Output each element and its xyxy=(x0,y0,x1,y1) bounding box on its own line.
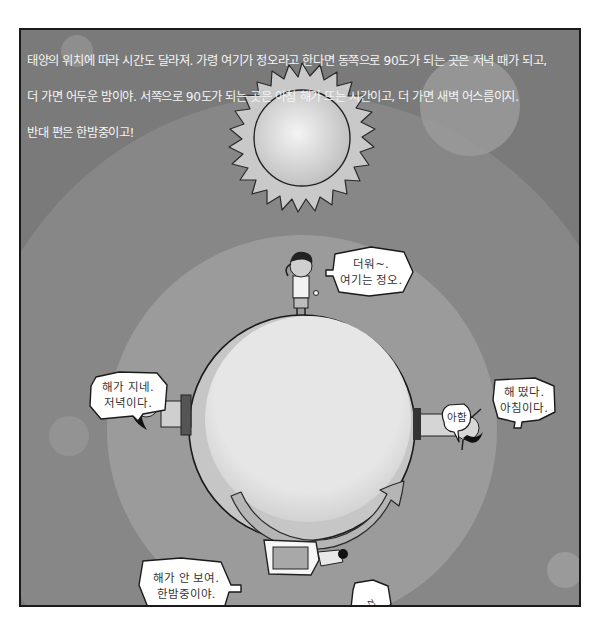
background-dot-left-mid xyxy=(49,416,89,456)
bubble-yawn-text: 아함 xyxy=(441,409,473,425)
caption-line-2: 더 가면 어두운 밤이야. 서쪽으로 90도가 되는 곳은 아침 해가 뜨는 시… xyxy=(27,88,573,106)
bubble-noon-text: 더워~. 여기는 정오. xyxy=(327,256,415,288)
bubble-midnight-text: 해가 안 보여. 한밤중이야. xyxy=(139,570,233,602)
bubble-snore: zzz xyxy=(351,580,391,607)
bubble-morning-text: 해 떴다. 아침이다. xyxy=(491,384,557,416)
caption-box: 태양의 위치에 따라 시간도 달라져. 가령 여기가 정오라고 한다면 동쪽으로… xyxy=(27,34,573,160)
caption-line-1: 태양의 위치에 따라 시간도 달라져. 가령 여기가 정오라고 한다면 동쪽으로… xyxy=(27,52,573,70)
caption-line-3: 반대 편은 한밤중이고! xyxy=(27,124,573,142)
bubble-evening-text: 해가 지네. 저녁이다. xyxy=(87,379,169,411)
comic-panel: zzz 태양의 위치에 따라 시간도 달라져. 가령 여기가 정오라고 한다면 … xyxy=(19,28,581,607)
